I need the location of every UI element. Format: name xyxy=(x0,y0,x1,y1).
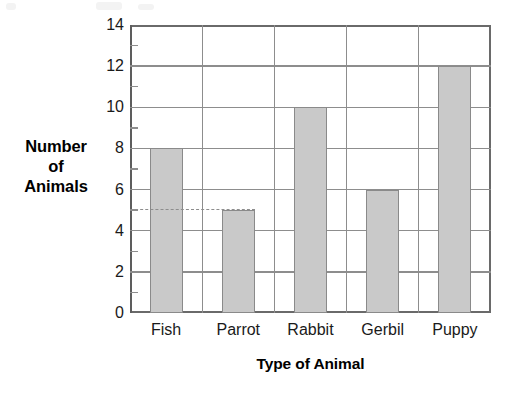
scan-artifact xyxy=(96,2,122,10)
x-tick-label-rabbit: Rabbit xyxy=(274,320,346,340)
minor-tick-y-7 xyxy=(130,168,138,169)
y-tick-label-2: 2 xyxy=(94,264,124,280)
minor-tick-y-1 xyxy=(130,292,138,293)
minor-tick-y-13 xyxy=(130,45,138,46)
y-tick-label-6: 6 xyxy=(94,182,124,198)
y-tick-label-14: 14 xyxy=(94,17,124,33)
bar-chart: Number of Animals 02468101214 FishParrot… xyxy=(0,0,517,398)
y-tick-label-12: 12 xyxy=(94,58,124,74)
y-axis-title-line-2: of xyxy=(6,156,106,176)
y-axis-title-line-3: Animals xyxy=(6,176,106,196)
y-tick-label-4: 4 xyxy=(94,223,124,239)
bar-rabbit xyxy=(294,107,327,313)
y-tick-label-0: 0 xyxy=(94,305,124,321)
minor-tick-y-11 xyxy=(130,86,138,87)
plot-frame-top xyxy=(130,25,491,27)
plot-frame-right xyxy=(489,25,491,313)
x-axis-tick-labels: FishParrotRabbitGerbilPuppy xyxy=(130,320,491,346)
gridline-x-1 xyxy=(202,25,203,313)
x-tick-label-gerbil: Gerbil xyxy=(347,320,419,340)
y-axis-tick-labels: 02468101214 xyxy=(92,25,124,313)
minor-tick-y-9 xyxy=(130,127,138,128)
bar-puppy xyxy=(438,66,471,313)
scan-artifact xyxy=(6,3,16,10)
gridline-x-2 xyxy=(274,25,275,313)
y-axis-title-line-1: Number xyxy=(6,136,106,156)
scan-artifact xyxy=(138,4,154,10)
y-axis-title: Number of Animals xyxy=(6,136,106,196)
minor-tick-y-3 xyxy=(130,251,138,252)
y-tick-label-8: 8 xyxy=(94,140,124,156)
x-tick-label-puppy: Puppy xyxy=(419,320,491,340)
bar-gerbil xyxy=(366,190,399,313)
reference-line-at-5 xyxy=(130,209,255,210)
bar-parrot xyxy=(222,210,255,313)
gridline-y-12 xyxy=(130,65,491,66)
gridline-x-4 xyxy=(418,25,419,313)
x-tick-label-parrot: Parrot xyxy=(202,320,274,340)
y-tick-label-10: 10 xyxy=(94,99,124,115)
gridline-x-3 xyxy=(346,25,347,313)
x-axis-title: Type of Animal xyxy=(130,355,491,373)
plot-area xyxy=(130,25,491,313)
x-tick-label-fish: Fish xyxy=(130,320,202,340)
bar-fish xyxy=(150,148,183,313)
